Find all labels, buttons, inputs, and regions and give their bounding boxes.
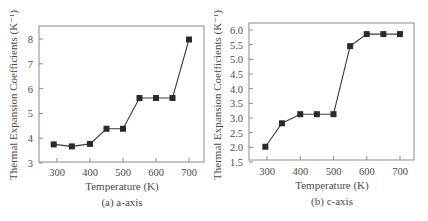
y-tick-label: 4.5 xyxy=(230,69,243,80)
square-marker xyxy=(153,95,159,101)
y-tick-label: 5.0 xyxy=(230,54,243,65)
data-series xyxy=(51,36,192,149)
square-marker xyxy=(186,36,192,42)
y-tick-label: 5 xyxy=(28,108,33,119)
y-tick-label: 2.0 xyxy=(230,142,243,153)
x-tick-label: 500 xyxy=(115,167,131,178)
y-tick-label: 2.5 xyxy=(230,128,243,139)
square-marker xyxy=(331,111,337,117)
x-axis-label: Temperature (K) xyxy=(295,179,369,192)
y-tick-label: 3.0 xyxy=(230,113,243,124)
square-marker xyxy=(347,43,353,49)
x-tick-label: 400 xyxy=(292,166,308,177)
x-axis-label: Temperature (K) xyxy=(85,180,159,193)
x-tick-label: 700 xyxy=(181,167,197,178)
square-marker xyxy=(87,141,93,147)
square-marker xyxy=(170,95,176,101)
y-tick-label: 6 xyxy=(28,84,33,95)
square-marker xyxy=(137,95,143,101)
square-marker xyxy=(397,31,403,37)
plot-frame xyxy=(39,26,204,162)
square-marker xyxy=(364,31,370,37)
square-marker xyxy=(69,143,75,149)
chart-panel-c-axis: 1.52.02.53.03.54.04.55.05.56.0 300400500… xyxy=(214,0,428,221)
square-marker xyxy=(262,144,268,150)
y-tick-label: 8 xyxy=(28,34,33,45)
y-tick-label: 3 xyxy=(28,158,33,169)
x-tick-label: 500 xyxy=(326,166,342,177)
square-marker xyxy=(104,126,110,132)
square-marker xyxy=(120,126,126,132)
x-ticks: 300400500600700 xyxy=(49,158,197,178)
y-tick-label: 5.5 xyxy=(230,40,243,51)
square-marker xyxy=(297,111,303,117)
y-tick-label: 6.0 xyxy=(230,25,243,36)
x-tick-label: 300 xyxy=(49,167,65,178)
y-ticks: 345678 xyxy=(28,34,43,169)
plot-frame xyxy=(249,23,414,160)
y-axis-label: Thermal Expansion Coefficients (K⁻¹) xyxy=(7,10,20,180)
series-line xyxy=(265,34,400,147)
x-ticks: 300400500600700 xyxy=(259,156,408,177)
chart-panel-a-axis: 345678 300400500600700 Thermal Expansion… xyxy=(0,0,214,221)
y-axis-label: Thermal Expansion Coefficients (K⁻¹) xyxy=(214,10,224,180)
square-marker xyxy=(314,111,320,117)
square-marker xyxy=(51,141,57,147)
chart-caption: (b) c-axis xyxy=(311,195,353,208)
y-tick-label: 1.5 xyxy=(230,157,243,168)
x-tick-label: 600 xyxy=(359,166,375,177)
square-marker xyxy=(380,31,386,37)
y-tick-label: 4.0 xyxy=(230,84,243,95)
chart-a-svg: 345678 300400500600700 Thermal Expansion… xyxy=(0,0,214,221)
y-tick-label: 4 xyxy=(28,133,34,144)
x-tick-label: 300 xyxy=(259,166,275,177)
x-tick-label: 600 xyxy=(148,167,164,178)
y-ticks: 1.52.02.53.03.54.04.55.05.56.0 xyxy=(230,25,253,168)
x-tick-label: 700 xyxy=(392,166,408,177)
x-tick-label: 400 xyxy=(82,167,98,178)
y-tick-label: 7 xyxy=(28,59,33,70)
data-series xyxy=(262,31,403,150)
y-tick-label: 3.5 xyxy=(230,98,243,109)
square-marker xyxy=(279,120,285,126)
chart-caption: (a) a-axis xyxy=(101,196,142,209)
chart-b-svg: 1.52.02.53.03.54.04.55.05.56.0 300400500… xyxy=(214,0,428,221)
